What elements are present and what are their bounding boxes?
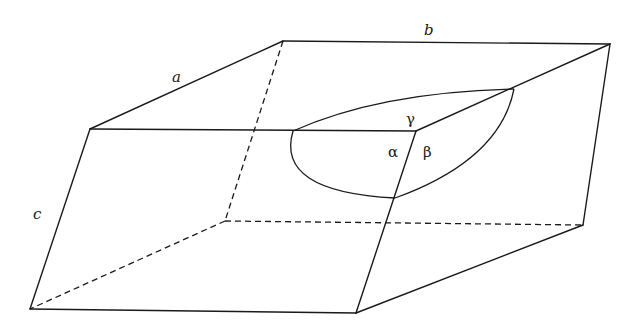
arc-alpha-left (291, 131, 395, 198)
edge-a-top-left (90, 41, 283, 129)
hidden-edge-bottom-back (225, 221, 583, 225)
hidden-edge-bottom-left (30, 221, 225, 309)
edge-bottom-front (30, 309, 356, 313)
edge-back-right-vertical (583, 44, 610, 225)
unit-cell-diagram: a b c γ α β (0, 0, 633, 336)
edge-b-top-back (283, 41, 610, 44)
edge-bottom-right (356, 225, 583, 313)
edge-top-front (90, 129, 416, 131)
arc-gamma-top (293, 89, 514, 131)
label-a: a (172, 68, 181, 86)
hidden-edge-back-left-vertical (225, 41, 283, 221)
label-alpha: α (388, 143, 398, 161)
parallelepiped-figure: a b c γ α β (0, 0, 633, 336)
label-gamma: γ (406, 110, 415, 128)
label-b: b (424, 21, 434, 39)
label-c: c (33, 205, 42, 223)
arc-beta-right (395, 89, 514, 198)
edge-top-right (416, 44, 610, 131)
label-beta: β (423, 143, 432, 161)
